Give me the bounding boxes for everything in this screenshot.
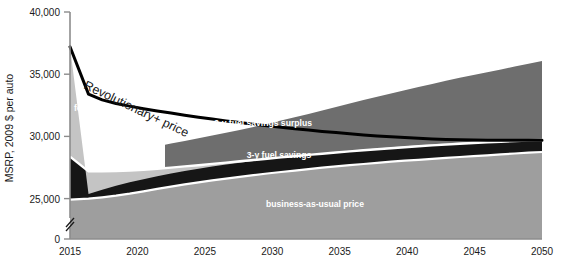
x-tick-label-2035: 2035 xyxy=(329,246,352,257)
label-fuel-savings: 3-y fuel savings xyxy=(247,150,312,160)
label-fuel-savings-surplus: 3-y fuel savings surplus xyxy=(214,118,312,128)
y-tick-label-40000: 40,000 xyxy=(29,7,60,18)
x-tick-label-2025: 2025 xyxy=(194,246,217,257)
y-tick-label-35000: 35,000 xyxy=(29,69,60,80)
y-tick-label-30000: 30,000 xyxy=(29,131,60,142)
label-feebate: feebate xyxy=(74,103,104,113)
y-tick-label-0: 0 xyxy=(54,234,60,245)
x-tick-label-2030: 2030 xyxy=(261,246,284,257)
x-tick-label-2020: 2020 xyxy=(126,246,149,257)
y-tick-label-25000: 25,000 xyxy=(29,194,60,205)
x-tick-label-2015: 2015 xyxy=(59,246,82,257)
label-business-as-usual: business-as-usual price xyxy=(266,199,364,209)
chart-container: 40,000 35,000 30,000 25,000 0 2015 2020 … xyxy=(0,0,562,267)
x-tick-label-2050: 2050 xyxy=(531,246,554,257)
x-tick-label-2045: 2045 xyxy=(463,246,486,257)
x-tick-label-2040: 2040 xyxy=(396,246,419,257)
y-axis-title: MSRP, 2009 $ per auto xyxy=(3,74,15,183)
area-chart: 40,000 35,000 30,000 25,000 0 2015 2020 … xyxy=(0,0,562,267)
